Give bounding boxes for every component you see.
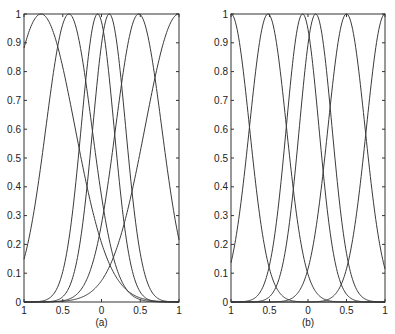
y-tick-label: 0.1 xyxy=(214,268,228,279)
y-tick-label: 0.4 xyxy=(7,181,21,192)
y-tick-label: 0.4 xyxy=(214,181,228,192)
x-tick-label: 0.5 xyxy=(340,305,354,316)
curve-basis-1 xyxy=(24,14,179,302)
y-tick-label: 0.8 xyxy=(214,66,228,77)
x-tick-label: 0.5 xyxy=(263,305,277,316)
x-tick-label: 1 xyxy=(21,305,27,316)
y-tick-label: 0.5 xyxy=(7,153,21,164)
x-tick-label: 0.5 xyxy=(133,305,147,316)
curve-basis-5 xyxy=(231,14,385,302)
curve-basis-1 xyxy=(231,14,385,302)
y-tick-label: 0.2 xyxy=(214,239,228,250)
y-tick-label: 1 xyxy=(222,9,228,20)
x-tick-label: 0 xyxy=(305,305,311,316)
x-tick-label: 0.5 xyxy=(56,305,70,316)
curve-basis-4 xyxy=(231,14,385,302)
x-tick-label: 0 xyxy=(99,305,105,316)
y-tick-label: 0.6 xyxy=(214,124,228,135)
curve-basis-2 xyxy=(24,14,179,302)
y-tick-label: 0.9 xyxy=(214,37,228,48)
y-tick-label: 0.8 xyxy=(7,66,21,77)
plot-frame xyxy=(231,14,385,302)
curve-basis-4 xyxy=(24,14,179,302)
y-tick-label: 0.7 xyxy=(7,95,21,106)
x-tick-label: 1 xyxy=(176,305,182,316)
y-tick-label: 0.1 xyxy=(7,268,21,279)
panel-label: (b) xyxy=(302,317,314,328)
y-tick-label: 0.6 xyxy=(7,124,21,135)
curve-basis-3 xyxy=(231,14,385,302)
y-tick-label: 1 xyxy=(15,9,21,20)
y-tick-label: 0.9 xyxy=(7,37,21,48)
y-tick-label: 0.3 xyxy=(7,210,21,221)
curve-basis-3 xyxy=(24,14,179,302)
chart-figure: 00.10.20.30.40.50.60.70.80.9110.500.51(a… xyxy=(0,0,395,334)
curve-basis-6 xyxy=(24,14,179,302)
y-tick-label: 0.3 xyxy=(214,210,228,221)
panel-b: 00.10.20.30.40.50.60.70.80.9110.500.51(b… xyxy=(214,9,388,329)
curve-basis-5 xyxy=(24,14,179,302)
plot-frame xyxy=(24,14,179,302)
curve-basis-2 xyxy=(231,14,385,302)
panel-label: (a) xyxy=(95,317,107,328)
y-tick-label: 0.2 xyxy=(7,239,21,250)
y-tick-label: 0.7 xyxy=(214,95,228,106)
x-tick-label: 1 xyxy=(382,305,388,316)
x-tick-label: 1 xyxy=(228,305,234,316)
curve-basis-6 xyxy=(231,14,385,302)
y-tick-label: 0.5 xyxy=(214,153,228,164)
panel-a: 00.10.20.30.40.50.60.70.80.9110.500.51(a… xyxy=(7,9,182,329)
